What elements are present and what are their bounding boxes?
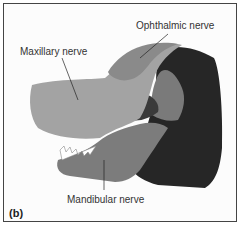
- dog-head-diagram: [0, 0, 243, 227]
- ophthalmic-label: Ophthalmic nerve: [136, 20, 214, 31]
- maxillary-label: Maxillary nerve: [20, 46, 87, 57]
- panel-label: (b): [9, 207, 23, 219]
- mandibular-label: Mandibular nerve: [67, 194, 144, 205]
